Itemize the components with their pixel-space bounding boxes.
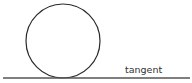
circle [26, 4, 100, 78]
tangent-diagram: tangent [0, 0, 192, 83]
tangent-label: tangent [125, 64, 162, 75]
